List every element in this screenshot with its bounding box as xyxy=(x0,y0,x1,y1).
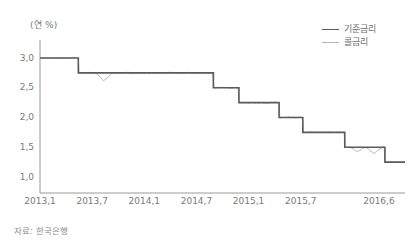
x-tick-label: 2016,6 xyxy=(363,196,395,206)
y-tick-label: 3,0 xyxy=(8,54,34,63)
x-tick-label: 2014,1 xyxy=(129,196,161,206)
y-axis-tick-labels: 3,02,52,01,51,0 xyxy=(4,0,34,252)
x-tick-label: 2015,1 xyxy=(233,196,265,206)
y-tick-label: 2,5 xyxy=(8,83,34,92)
interest-rate-chart: (연 %) 기준금리 콜금리 3,02,52,01,51,0 2013,1201… xyxy=(0,0,417,252)
legend-line-icon-call-rate xyxy=(322,42,339,43)
x-tick-label: 2013,7 xyxy=(76,196,108,206)
y-tick-label: 1,0 xyxy=(8,173,34,182)
y-tick-label: 2,0 xyxy=(8,113,34,122)
legend-label-call-rate: 콜금리 xyxy=(344,37,368,47)
legend-line-icon-base-rate xyxy=(322,29,339,30)
x-tick-label: 2014,7 xyxy=(181,196,213,206)
legend-label-base-rate: 기준금리 xyxy=(344,24,376,34)
legend-item-call-rate: 콜금리 xyxy=(322,37,376,47)
source-note: 자료: 한국은행 xyxy=(14,224,68,236)
x-tick-label: 2015,7 xyxy=(285,196,317,206)
x-tick-label: 2013,1 xyxy=(24,196,56,206)
series-line-base-rate xyxy=(40,58,405,162)
y-tick-label: 1,5 xyxy=(8,143,34,152)
y-axis-unit-label: (연 %) xyxy=(30,18,57,31)
chart-legend: 기준금리 콜금리 xyxy=(322,24,376,47)
x-axis-tick-labels: 2013,12013,72014,12014,72015,12015,72016… xyxy=(0,196,417,210)
legend-item-base-rate: 기준금리 xyxy=(322,24,376,34)
